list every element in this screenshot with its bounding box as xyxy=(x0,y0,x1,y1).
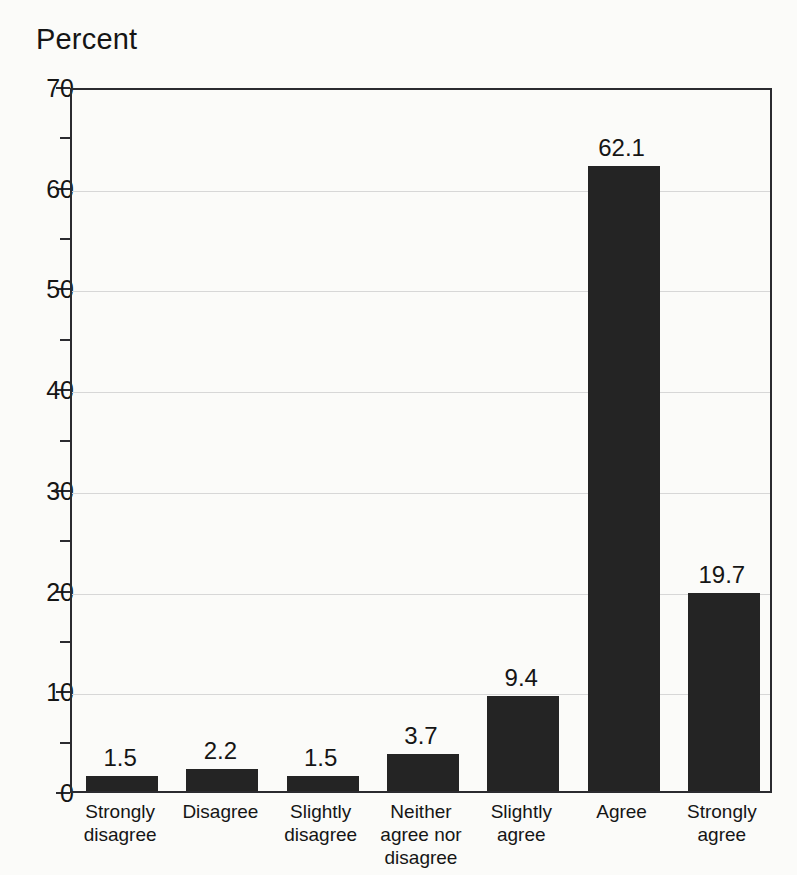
x-category-label-line: Disagree xyxy=(170,800,270,823)
gridline xyxy=(72,291,770,292)
bar xyxy=(387,754,459,791)
bar-value-label: 9.4 xyxy=(461,666,581,690)
x-category-label-line: disagree xyxy=(371,846,471,869)
chart-title: Percent xyxy=(36,22,137,56)
bar xyxy=(287,776,359,791)
x-category-label: Neitheragree nordisagree xyxy=(371,800,471,869)
gridline xyxy=(72,493,770,494)
y-tick-minor xyxy=(60,641,70,643)
x-category-label-line: Agree xyxy=(571,800,671,823)
x-category-label-line: disagree xyxy=(70,823,170,846)
x-category-label-line: agree xyxy=(471,823,571,846)
y-tick-minor xyxy=(60,238,70,240)
x-category-label: Stronglyagree xyxy=(672,800,772,846)
x-category-label-line: Slightly xyxy=(271,800,371,823)
bar-chart: Percent 010203040506070 Stronglydisagree… xyxy=(0,0,797,875)
x-category-label: Stronglydisagree xyxy=(70,800,170,846)
x-category-label: Agree xyxy=(571,800,671,823)
bar xyxy=(688,593,760,791)
bar xyxy=(186,769,258,791)
bar-value-label: 62.1 xyxy=(562,136,682,160)
bar xyxy=(487,696,559,791)
bar-value-label: 1.5 xyxy=(261,746,381,770)
x-category-label-line: Strongly xyxy=(672,800,772,823)
x-category-label-line: agree nor xyxy=(371,823,471,846)
bar xyxy=(86,776,158,791)
x-category-label-line: Slightly xyxy=(471,800,571,823)
x-category-label-line: Neither xyxy=(371,800,471,823)
x-category-label-line: Strongly xyxy=(70,800,170,823)
gridline xyxy=(72,392,770,393)
y-tick-minor xyxy=(60,137,70,139)
gridline xyxy=(72,694,770,695)
bar xyxy=(588,166,660,791)
x-category-label: Slightlyagree xyxy=(471,800,571,846)
gridline xyxy=(72,191,770,192)
x-category-label-line: agree xyxy=(672,823,772,846)
x-category-label-line: disagree xyxy=(271,823,371,846)
x-category-label: Slightlydisagree xyxy=(271,800,371,846)
y-tick-minor xyxy=(60,440,70,442)
bar-value-label: 3.7 xyxy=(361,724,481,748)
bar-value-label: 19.7 xyxy=(662,563,782,587)
y-tick-minor xyxy=(60,742,70,744)
x-category-label: Disagree xyxy=(170,800,270,823)
plot-area xyxy=(70,88,772,793)
y-tick-minor xyxy=(60,540,70,542)
y-tick-minor xyxy=(60,339,70,341)
gridline xyxy=(72,594,770,595)
